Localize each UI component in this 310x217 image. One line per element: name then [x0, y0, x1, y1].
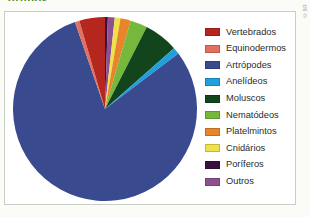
legend-item[interactable]: Outros: [205, 173, 296, 190]
legend-item[interactable]: Platelmintos: [205, 124, 296, 141]
legend-label-moluscos: Moluscos: [226, 94, 265, 103]
legend-item[interactable]: Artrópodes: [205, 57, 296, 74]
legend-item[interactable]: Anelídeos: [205, 74, 296, 91]
legend-label-platelmintos: Platelmintos: [226, 127, 277, 136]
legend-label-poriferos: Poríferos: [226, 160, 264, 169]
legend-item[interactable]: Moluscos: [205, 90, 296, 107]
legend-swatch-poriferos: [205, 161, 220, 169]
pie-area: [5, 12, 201, 205]
legend-item[interactable]: Vertebrados: [205, 24, 296, 41]
legend-label-anelideos: Anelídeos: [226, 77, 267, 86]
legend-swatch-vertebrados: [205, 28, 220, 36]
legend-swatch-platelmintos: [205, 128, 220, 136]
chart-plot-frame: Vertebrados Equinodermos Artrópodes Anel…: [4, 11, 296, 205]
legend-label-outros: Outros: [226, 177, 254, 186]
legend-swatch-moluscos: [205, 95, 220, 103]
legend-label-cnidarios: Cnidários: [226, 144, 265, 153]
chart-legend: Vertebrados Equinodermos Artrópodes Anel…: [205, 24, 296, 190]
legend-item[interactable]: Poríferos: [205, 157, 296, 174]
legend-swatch-equinodermos: [205, 45, 220, 53]
legend-swatch-outros: [205, 178, 220, 186]
legend-item[interactable]: Cnidários: [205, 140, 296, 157]
legend-swatch-anelideos: [205, 78, 220, 86]
legend-item[interactable]: Nematódeos: [205, 107, 296, 124]
legend-swatch-artropodes: [205, 61, 220, 69]
pie-svg: [5, 12, 201, 205]
figure-title-remnant: grupos: [8, 0, 48, 1]
image-credit-watermark: ©BR: [302, 4, 308, 18]
legend-swatch-cnidarios: [205, 144, 220, 152]
legend-item[interactable]: Equinodermos: [205, 41, 296, 58]
legend-label-vertebrados: Vertebrados: [226, 28, 276, 37]
pie-chart-figure: grupos ©BR Vertebrados Equinodermos Artr…: [0, 0, 310, 217]
legend-label-artropodes: Artrópodes: [226, 61, 271, 70]
legend-label-nematodeos: Nematódeos: [226, 111, 279, 120]
legend-swatch-nematodeos: [205, 111, 220, 119]
legend-label-equinodermos: Equinodermos: [226, 44, 286, 53]
